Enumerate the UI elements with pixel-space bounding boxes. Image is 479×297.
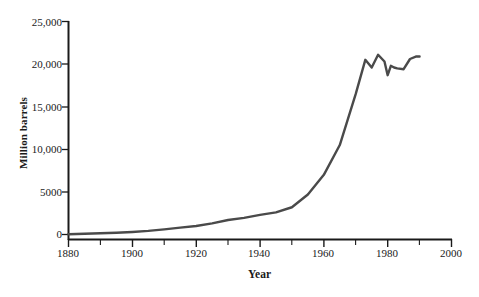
figure-caption-clipped (0, 292, 479, 297)
data-series-line (69, 55, 420, 235)
figure-oil-production-chart: Million barrels 25,000 20,000 15,000 10,… (0, 0, 479, 297)
axis-lines (68, 21, 452, 240)
plot-area (0, 0, 479, 297)
